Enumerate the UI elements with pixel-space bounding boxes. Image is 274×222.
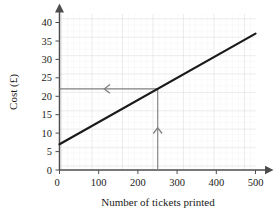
x-tick-label-0: 0 bbox=[54, 177, 59, 188]
y-tick-label-35: 35 bbox=[42, 36, 53, 47]
chart-page: 0 5 10 15 20 25 30 35 40 0 100 200 300 4… bbox=[0, 0, 274, 222]
y-axis-title: Cost (£) bbox=[7, 74, 20, 110]
y-tick-label-0: 0 bbox=[47, 165, 52, 176]
x-tick-label-400: 400 bbox=[208, 177, 224, 188]
y-tick-label-30: 30 bbox=[42, 54, 53, 65]
y-tick-labels: 0 5 10 15 20 25 30 35 40 bbox=[42, 17, 53, 176]
y-tick-label-10: 10 bbox=[42, 128, 53, 139]
y-tick-label-5: 5 bbox=[47, 146, 52, 157]
y-tick-label-40: 40 bbox=[42, 17, 53, 28]
x-axis-title: Number of tickets printed bbox=[101, 196, 215, 208]
x-tick-label-500: 500 bbox=[248, 177, 264, 188]
x-tick-label-300: 300 bbox=[169, 177, 185, 188]
y-tick-label-25: 25 bbox=[42, 72, 53, 83]
x-tick-label-200: 200 bbox=[130, 177, 146, 188]
x-tick-label-100: 100 bbox=[91, 177, 107, 188]
y-tick-label-15: 15 bbox=[42, 109, 53, 120]
x-tick-labels: 0 100 200 300 400 500 bbox=[54, 177, 263, 188]
y-tick-label-20: 20 bbox=[42, 91, 53, 102]
line-chart: 0 5 10 15 20 25 30 35 40 0 100 200 300 4… bbox=[0, 0, 274, 222]
